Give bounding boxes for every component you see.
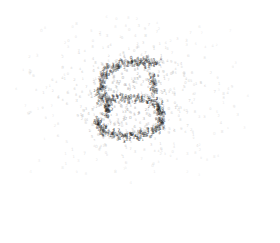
scatter-point: 6 — [200, 82, 202, 85]
scatter-point: 7 — [154, 88, 157, 92]
scatter-point: 0 — [125, 107, 127, 111]
scatter-point: 3 — [157, 160, 159, 163]
scatter-point: 7 — [160, 91, 162, 95]
scatter-point: 2 — [99, 31, 102, 35]
scatter-point: 0 — [99, 132, 102, 136]
scatter-point: 7 — [110, 123, 112, 126]
scatter-point: 7 — [214, 90, 217, 94]
scatter-point: 7 — [51, 104, 53, 107]
scatter-point: 8 — [179, 119, 181, 123]
scatter-point: 0 — [129, 116, 132, 120]
scatter-point: 4 — [174, 69, 176, 72]
scatter-point: 2 — [124, 117, 127, 121]
scatter-point: 3 — [67, 46, 69, 49]
scatter-point: 5 — [93, 139, 95, 142]
scatter-point: 6 — [140, 132, 142, 135]
scatter-point: 6 — [139, 122, 141, 126]
scatter-point: 2 — [119, 36, 121, 39]
scatter-point: 7 — [108, 89, 110, 92]
scatter-point: 5 — [114, 100, 116, 104]
scatter-point: 3 — [186, 152, 189, 156]
scatter-point: 3 — [235, 62, 237, 65]
scatter-point: 7 — [163, 76, 165, 80]
scatter-point: 6 — [184, 131, 186, 134]
scatter-point: 9 — [96, 102, 99, 106]
scatter-point: 0 — [118, 102, 120, 106]
scatter-point: 2 — [170, 40, 172, 43]
scatter-point: 8 — [194, 152, 196, 156]
scatter-point: 0 — [209, 108, 211, 111]
scatter-point: 4 — [61, 77, 63, 81]
scatter-point: 6 — [66, 102, 68, 106]
scatter-point: 3 — [123, 140, 126, 144]
scatter-point: 7 — [193, 100, 195, 104]
scatter-point: 8 — [111, 136, 113, 140]
scatter-point: 3 — [150, 145, 152, 149]
scatter-point: 7 — [52, 115, 54, 118]
scatter-point: 7 — [111, 73, 113, 77]
scatter-point: 2 — [160, 153, 162, 157]
scatter-point: 3 — [117, 118, 120, 122]
scatter-point: 3 — [243, 127, 245, 131]
scatter-point: 6 — [204, 86, 206, 89]
scatter-point: 1 — [102, 48, 104, 51]
scatter-point: 6 — [81, 71, 83, 74]
scatter-point: 7 — [186, 124, 189, 128]
scatter-point: 1 — [110, 113, 112, 116]
scatter-point: 3 — [198, 174, 200, 177]
scatter-point: 3 — [218, 90, 220, 93]
scatter-point: 5 — [136, 77, 139, 81]
scatter-point: 4 — [156, 23, 158, 26]
scatter-point: 2 — [136, 73, 138, 77]
scatter-point: 8 — [125, 25, 127, 28]
scatter-point: 2 — [216, 44, 218, 47]
scatter-point: 4 — [182, 89, 184, 92]
scatter-point: 0 — [184, 82, 186, 86]
scatter-point: 5 — [125, 84, 127, 87]
scatter-point: 2 — [28, 55, 30, 59]
scatter-point: 4 — [97, 120, 99, 124]
scatter-point: 2 — [108, 66, 110, 69]
scatter-point: 2 — [198, 144, 200, 147]
scatter-point: 1 — [43, 139, 45, 142]
scatter-point: 2 — [108, 55, 110, 58]
scatter-point: 4 — [185, 78, 187, 82]
scatter-point: 1 — [37, 109, 39, 112]
scatter-point: 1 — [159, 143, 161, 147]
scatter-point: 3 — [38, 159, 41, 163]
scatter-point: 1 — [71, 148, 74, 152]
scatter-point: 2 — [186, 110, 188, 114]
scatter-point: 9 — [200, 158, 202, 161]
scatter-point: 0 — [61, 66, 64, 70]
scatter-point: 8 — [81, 92, 83, 95]
scatter-point: 1 — [22, 69, 24, 72]
scatter-point: 2 — [102, 127, 105, 131]
scatter-point: 1 — [65, 161, 68, 165]
scatter-point: 6 — [84, 60, 86, 63]
scatter-point: 5 — [133, 113, 136, 117]
scatter-point: 7 — [117, 129, 120, 134]
scatter-point: 4 — [204, 46, 206, 49]
scatter-point: 1 — [121, 153, 123, 156]
scatter-point: 0 — [121, 124, 124, 128]
scatter-point: 6 — [76, 83, 78, 86]
scatter-point: 2 — [144, 132, 147, 136]
scatter-point: 0 — [181, 66, 183, 69]
scatter-point: 2 — [186, 172, 188, 175]
scatter-point: 1 — [165, 93, 167, 96]
scatter-point: 2 — [210, 72, 212, 76]
scatter-point: 2 — [217, 116, 219, 120]
scatter-point: 3 — [106, 34, 109, 38]
scatter-point: 8 — [71, 66, 73, 69]
plot-area: 3327367756185394191341400902953376108896… — [0, 0, 280, 243]
scatter-point: 6 — [140, 84, 142, 87]
scatter-point: 6 — [79, 95, 81, 99]
scatter-point: 6 — [106, 17, 108, 20]
scatter-point: 9 — [169, 156, 171, 159]
scatter-point: 2 — [136, 18, 138, 21]
scatter-point: 4 — [93, 144, 95, 147]
scatter-point: 5 — [91, 108, 94, 112]
scatter-point: 0 — [151, 164, 154, 168]
scatter-point: 6 — [125, 161, 128, 165]
scatter-point: 3 — [134, 150, 137, 154]
